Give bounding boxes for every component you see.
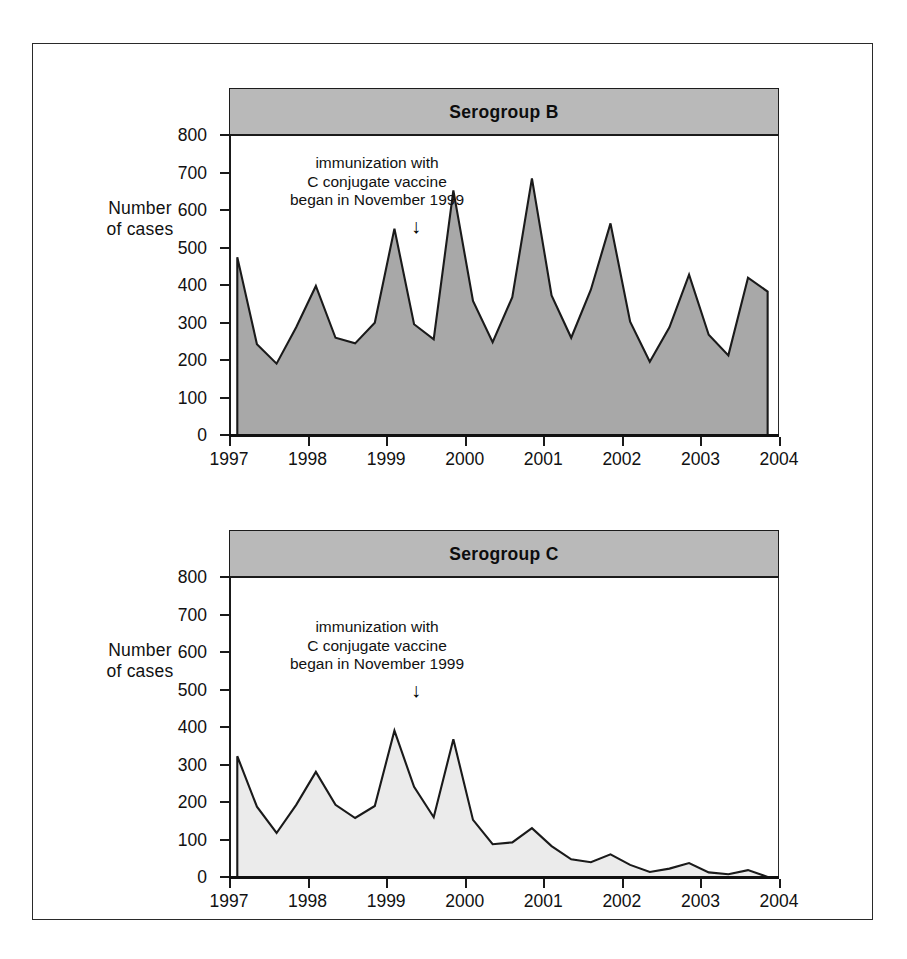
y-tick-label: 300 [75, 754, 207, 775]
annotation-line3-c: began in November 1999 [247, 655, 507, 674]
figure-frame: Number of cases Serogroup B immunization… [32, 43, 873, 920]
x-tick-mark [308, 437, 310, 446]
y-tick-mark [220, 801, 229, 803]
x-axis-baseline-b [229, 434, 779, 438]
y-tick-mark [220, 247, 229, 249]
y-tick-label: 0 [75, 867, 207, 888]
x-tick-label: 2002 [587, 449, 657, 470]
x-tick-label: 1998 [273, 891, 343, 912]
annotation-line3-b: began in November 1999 [247, 191, 507, 210]
x-tick-label: 2001 [508, 449, 578, 470]
y-tick-mark [220, 726, 229, 728]
y-tick-mark [220, 876, 229, 878]
x-tick-mark [465, 879, 467, 888]
y-tick-mark [220, 764, 229, 766]
annotation-line2-c: C conjugate vaccine [247, 637, 507, 656]
annotation-text-c: immunization with C conjugate vaccine be… [247, 618, 507, 674]
y-tick-label: 200 [75, 350, 207, 371]
x-axis-baseline-c [229, 876, 779, 880]
x-tick-label: 2003 [665, 449, 735, 470]
x-tick-label: 1999 [351, 449, 421, 470]
x-tick-mark [465, 437, 467, 446]
y-tick-label: 500 [75, 679, 207, 700]
y-tick-label: 300 [75, 312, 207, 333]
y-tick-label: 800 [75, 125, 207, 146]
annotation-arrow-c: ↓ [411, 680, 421, 700]
y-tick-mark [220, 359, 229, 361]
y-tick-label: 700 [75, 162, 207, 183]
y-tick-label: 600 [75, 642, 207, 663]
y-tick-mark [220, 134, 229, 136]
annotation-text-b: immunization with C conjugate vaccine be… [247, 154, 507, 210]
x-tick-label: 2002 [587, 891, 657, 912]
x-tick-label: 1998 [273, 449, 343, 470]
panel-title-c: Serogroup C [230, 543, 778, 564]
y-tick-label: 400 [75, 275, 207, 296]
x-tick-label: 1999 [351, 891, 421, 912]
y-tick-mark [220, 651, 229, 653]
annotation-line2-b: C conjugate vaccine [247, 173, 507, 192]
y-tick-label: 200 [75, 792, 207, 813]
y-tick-mark [220, 322, 229, 324]
y-tick-label: 100 [75, 387, 207, 408]
x-tick-label: 2000 [430, 891, 500, 912]
y-tick-mark [220, 434, 229, 436]
annotation-line1-c: immunization with [247, 618, 507, 637]
y-tick-label: 600 [75, 200, 207, 221]
x-tick-mark [543, 879, 545, 888]
x-tick-mark [543, 437, 545, 446]
annotation-line1-b: immunization with [247, 154, 507, 173]
y-tick-mark [220, 397, 229, 399]
x-tick-label: 2000 [430, 449, 500, 470]
y-tick-mark [220, 689, 229, 691]
x-tick-mark [700, 879, 702, 888]
y-tick-mark [220, 576, 229, 578]
y-tick-label: 100 [75, 829, 207, 850]
panel-title-b: Serogroup B [230, 101, 778, 122]
annotation-arrow-b: ↓ [411, 216, 421, 236]
x-tick-mark [386, 437, 388, 446]
x-tick-label: 2004 [744, 449, 814, 470]
x-tick-label: 1997 [194, 449, 264, 470]
x-tick-mark [779, 437, 781, 446]
y-tick-mark [220, 839, 229, 841]
x-tick-mark [308, 879, 310, 888]
x-tick-mark [622, 879, 624, 888]
panel-header-band-c: Serogroup C [229, 530, 779, 577]
x-tick-mark [700, 437, 702, 446]
x-tick-label: 1997 [194, 891, 264, 912]
y-tick-label: 700 [75, 604, 207, 625]
x-tick-mark [229, 437, 231, 446]
y-tick-mark [220, 614, 229, 616]
y-tick-label: 400 [75, 717, 207, 738]
x-tick-mark [779, 879, 781, 888]
x-tick-mark [229, 879, 231, 888]
y-tick-label: 500 [75, 237, 207, 258]
y-tick-mark [220, 209, 229, 211]
y-tick-label: 0 [75, 425, 207, 446]
x-tick-label: 2003 [665, 891, 735, 912]
y-tick-label: 800 [75, 567, 207, 588]
x-tick-mark [622, 437, 624, 446]
x-tick-mark [386, 879, 388, 888]
x-tick-label: 2004 [744, 891, 814, 912]
y-tick-mark [220, 172, 229, 174]
panel-header-band-b: Serogroup B [229, 88, 779, 135]
y-tick-mark [220, 284, 229, 286]
x-tick-label: 2001 [508, 891, 578, 912]
